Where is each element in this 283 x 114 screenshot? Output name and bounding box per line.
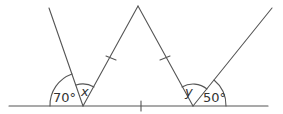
angle-label-x: x (80, 84, 89, 99)
triangle-left-side (83, 6, 138, 106)
diagram-canvas: 70° x y 50° (0, 0, 283, 114)
angle-label-y: y (184, 84, 193, 99)
angle-label-70: 70° (53, 90, 76, 105)
geometry-diagram: 70° x y 50° (0, 0, 283, 114)
tick-mark-left-side (106, 56, 116, 60)
tick-mark-right-side (160, 56, 170, 60)
angle-label-50: 50° (203, 90, 226, 105)
